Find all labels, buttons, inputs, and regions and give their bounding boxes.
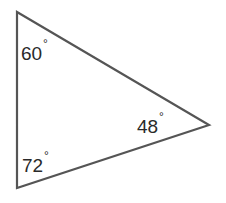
svg-text:48: 48: [137, 116, 158, 137]
angle-label-bottom-left: 72 °: [22, 149, 49, 176]
svg-text:60: 60: [21, 43, 42, 64]
triangle-diagram: 60 ° 48 ° 72 °: [0, 0, 226, 203]
svg-text:°: °: [43, 37, 48, 51]
svg-text:°: °: [44, 149, 49, 163]
angle-label-top-left: 60 °: [21, 37, 48, 64]
svg-text:°: °: [159, 110, 164, 124]
svg-text:72: 72: [22, 155, 43, 176]
angle-label-right: 48 °: [137, 110, 164, 137]
